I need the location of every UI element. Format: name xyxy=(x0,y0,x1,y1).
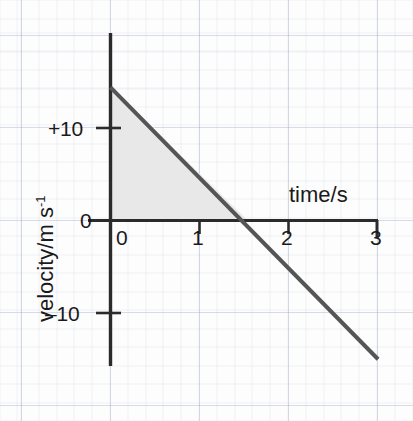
y-axis-title: velocity/m s-1 xyxy=(33,196,59,322)
y-tick-label-zero: 0 xyxy=(80,209,91,233)
y-axis-title-text: velocity/m s xyxy=(33,207,58,322)
plot-area xyxy=(0,0,413,421)
x-axis-title: time/s xyxy=(289,182,348,208)
x-tick-label-2: 2 xyxy=(281,226,292,250)
y-tick-label-plus10: +10 xyxy=(48,117,83,141)
velocity-data-line xyxy=(111,87,379,359)
velocity-time-graph-figure: +10 0 –10 0 1 2 3 time/s velocity/m s-1 xyxy=(0,0,413,421)
x-tick-label-3: 3 xyxy=(370,226,381,250)
x-tick-label-0: 0 xyxy=(116,226,127,250)
y-axis-title-exponent: -1 xyxy=(33,196,48,208)
x-tick-label-1: 1 xyxy=(192,226,203,250)
